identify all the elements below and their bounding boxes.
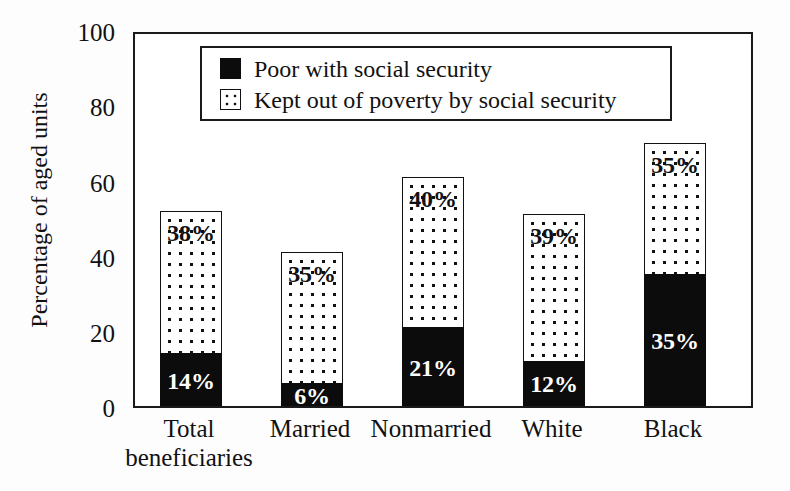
bar-segment-poor-0: 14% <box>160 353 222 406</box>
bar-label-poor-2: 21% <box>409 356 456 380</box>
y-tick-60: 60 <box>90 171 115 196</box>
bar-segment-kept-3: 39% <box>523 214 585 361</box>
bar-segment-poor-4: 35% <box>644 274 706 406</box>
bar-segment-kept-0: 38% <box>160 211 222 354</box>
dotted-square-icon <box>220 89 241 110</box>
bar-group-nonmarried: 40% 21% <box>402 177 464 406</box>
legend-label-poor: Poor with social security <box>254 57 492 81</box>
x-tick-black: Black <box>644 414 702 443</box>
bar-group-black: 35% 35% <box>644 143 706 406</box>
bar-label-kept-4: 35% <box>650 153 699 177</box>
x-tick-nonmarried: Nonmarried <box>371 414 492 443</box>
y-tick-0: 0 <box>103 396 116 421</box>
bar-segment-kept-2: 40% <box>402 177 464 327</box>
y-tick-80: 80 <box>90 95 115 120</box>
bar-label-kept-2: 40% <box>408 187 457 211</box>
y-tick-20: 20 <box>90 321 115 346</box>
bar-label-poor-0: 14% <box>167 369 214 393</box>
bar-group-married: 35% 6% <box>281 252 343 406</box>
x-tick-total-beneficiaries: Total beneficiaries <box>125 414 253 472</box>
legend-item-kept: Kept out of poverty by social security <box>220 84 670 115</box>
legend: Poor with social security Kept out of po… <box>200 46 672 121</box>
x-tick-married: Married <box>270 414 351 443</box>
x-axis-tick-labels: Total beneficiaries Married Nonmarried W… <box>133 414 753 489</box>
bar-label-poor-4: 35% <box>651 329 698 353</box>
y-tick-40: 40 <box>90 246 115 271</box>
legend-item-poor: Poor with social security <box>220 53 670 84</box>
plot-area: 38% 14% 35% 6% 40% 21% 39% <box>133 32 753 408</box>
bar-group-total-beneficiaries: 38% 14% <box>160 211 222 406</box>
x-tick-line-2: beneficiaries <box>125 443 253 472</box>
bar-segment-poor-2: 21% <box>402 327 464 406</box>
legend-label-kept: Kept out of poverty by social security <box>254 88 617 112</box>
x-tick-white: White <box>521 414 582 443</box>
black-square-icon <box>220 58 241 79</box>
bar-label-kept-1: 35% <box>287 262 336 286</box>
bar-label-kept-0: 38% <box>166 221 215 245</box>
bar-segment-poor-3: 12% <box>523 361 585 406</box>
bar-group-white: 39% 12% <box>523 214 585 406</box>
bar-segment-poor-1: 6% <box>281 383 343 406</box>
bar-segment-kept-4: 35% <box>644 143 706 275</box>
chart-page: Percentage of aged units 100 80 60 40 20… <box>0 0 790 491</box>
y-tick-100: 100 <box>78 20 116 45</box>
bar-label-kept-3: 39% <box>529 224 578 248</box>
bar-label-poor-1: 6% <box>294 384 330 408</box>
y-axis-tick-labels: 100 80 60 40 20 0 <box>0 0 125 491</box>
bar-label-poor-3: 12% <box>530 372 577 396</box>
x-tick-line-1: Total <box>125 414 253 443</box>
bar-segment-kept-1: 35% <box>281 252 343 384</box>
